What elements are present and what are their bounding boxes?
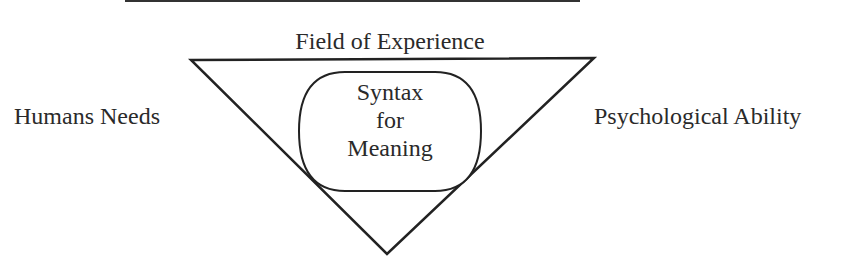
center-line-1: Syntax	[300, 78, 480, 106]
field-of-experience-label: Field of Experience	[272, 29, 508, 53]
humans-needs-label: Humans Needs	[14, 104, 160, 128]
center-line-3: Meaning	[300, 134, 480, 162]
center-line-2: for	[300, 106, 480, 134]
psychological-ability-label: Psychological Ability	[594, 104, 801, 128]
syntax-for-meaning-text: Syntax for Meaning	[300, 78, 480, 162]
